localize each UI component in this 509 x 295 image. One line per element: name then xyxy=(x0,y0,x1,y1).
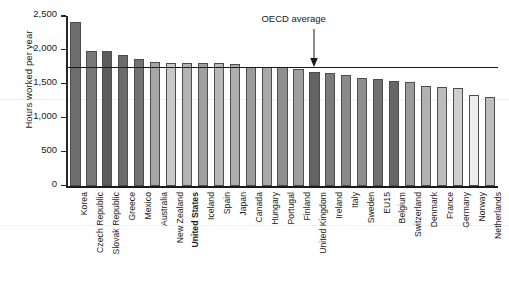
bar xyxy=(485,97,495,186)
x-axis-label: Australia xyxy=(159,192,169,226)
bar xyxy=(469,95,479,186)
x-axis-label: Italy xyxy=(350,192,360,208)
bar xyxy=(246,67,256,186)
x-axis-label: Slovak Republic xyxy=(111,192,121,254)
oecd-average-annotation-label: OECD average xyxy=(261,13,325,24)
bar xyxy=(102,51,112,186)
x-axis-label: Netherlands xyxy=(493,192,503,239)
x-axis-label: Switzerland xyxy=(413,192,423,237)
bar xyxy=(421,86,431,186)
x-axis-label: Denmark xyxy=(429,192,439,227)
bar xyxy=(214,63,224,185)
x-axis-label: Czech Republic xyxy=(95,192,105,253)
x-axis-label: Belgium xyxy=(397,192,407,223)
x-axis-label: Mexico xyxy=(143,192,153,220)
bar xyxy=(198,63,208,185)
bar xyxy=(437,87,447,186)
x-axis-label: Korea xyxy=(79,192,89,215)
oecd-average-line xyxy=(68,67,498,68)
x-axis-label: Finland xyxy=(302,192,312,221)
x-axis-label: Germany xyxy=(461,192,471,228)
bar xyxy=(453,88,463,186)
x-axis-label: New Zealand xyxy=(175,192,185,243)
bar xyxy=(277,67,287,185)
x-axis-label: United States xyxy=(190,192,200,248)
x-axis-label: France xyxy=(445,192,455,219)
bar xyxy=(309,72,319,186)
x-axis-label: Sweden xyxy=(366,192,376,223)
x-axis-label: Spain xyxy=(222,192,232,214)
bar xyxy=(325,73,335,186)
x-axis-line xyxy=(66,186,498,188)
y-axis-title: Hours worked per year xyxy=(23,0,34,160)
bar xyxy=(118,55,128,186)
bar xyxy=(293,69,303,186)
y-tick: 0 xyxy=(61,185,66,186)
y-tick-label: 1,500 xyxy=(33,76,57,87)
bar xyxy=(70,22,80,186)
bar xyxy=(150,62,160,185)
bar xyxy=(389,81,399,186)
y-tick-label: 500 xyxy=(41,144,57,155)
bar xyxy=(262,67,272,186)
x-axis-label: EU15 xyxy=(382,192,392,214)
plot-area: 05001,0001,5002,0002,500 xyxy=(66,16,498,188)
bar xyxy=(230,64,240,186)
x-axis-label: Norway xyxy=(477,192,487,221)
bar xyxy=(166,63,176,186)
x-axis-labels: KoreaCzech RepublicSlovak RepublicGreece… xyxy=(66,192,498,292)
chart-figure: Hours worked per year 05001,0001,5002,00… xyxy=(0,0,509,295)
bar xyxy=(405,82,415,186)
bar xyxy=(134,59,144,186)
x-axis-label: Japan xyxy=(238,192,248,216)
x-axis-label: Greece xyxy=(127,192,137,220)
y-tick: 2,000 xyxy=(61,49,66,50)
x-axis-label: Iceland xyxy=(206,192,216,220)
y-tick-label: 0 xyxy=(52,178,57,189)
bar xyxy=(86,51,96,186)
y-tick-label: 2,000 xyxy=(33,42,57,53)
bar xyxy=(357,78,367,186)
x-axis-label: Hungary xyxy=(270,192,280,225)
bar xyxy=(182,63,192,186)
bar xyxy=(373,79,383,186)
oecd-average-arrow-icon xyxy=(307,29,321,69)
x-axis-label: Ireland xyxy=(334,192,344,219)
y-tick: 1,000 xyxy=(61,117,66,118)
y-tick: 500 xyxy=(61,151,66,152)
bar xyxy=(341,75,351,185)
y-tick-label: 2,500 xyxy=(33,8,57,19)
x-axis-label: Portugal xyxy=(286,192,296,224)
y-tick-label: 1,000 xyxy=(33,110,57,121)
x-axis-label: Canada xyxy=(254,192,264,222)
y-tick: 1,500 xyxy=(61,83,66,84)
y-tick: 2,500 xyxy=(61,15,66,16)
bar-series xyxy=(68,16,498,186)
x-axis-label: United Kingdom xyxy=(318,192,328,254)
